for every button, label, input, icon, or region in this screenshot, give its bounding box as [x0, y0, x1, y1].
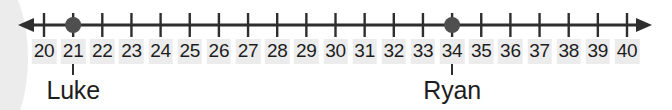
annotation-leader-line [72, 64, 74, 75]
annotation-label-ryan: Ryan [423, 77, 481, 104]
tick-label: 27 [236, 39, 261, 64]
tick-label: 25 [177, 39, 202, 64]
number-line-figure: 2021222324252627282930313233343536373839… [0, 0, 672, 110]
tick-label: 23 [119, 39, 144, 64]
tick-label: 40 [615, 39, 640, 64]
tick-label: 32 [382, 39, 407, 64]
tick-label: 21 [61, 39, 86, 64]
tick-label: 24 [148, 39, 173, 64]
right-arrowhead-icon [636, 18, 652, 32]
point-marker[interactable] [444, 17, 460, 33]
tick-label: 26 [207, 39, 232, 64]
tick-label: 33 [411, 39, 436, 64]
tick-label: 35 [469, 39, 494, 64]
tick-label: 30 [323, 39, 348, 64]
tick-label: 36 [498, 39, 523, 64]
annotation-label-luke: Luke [46, 77, 99, 104]
left-arrowhead-icon [18, 18, 34, 32]
tick-label: 38 [556, 39, 581, 64]
tick-label: 31 [352, 39, 377, 64]
tick-label: 28 [265, 39, 290, 64]
tick-label: 22 [90, 39, 115, 64]
tick-label: 34 [440, 39, 465, 64]
tick-marks [44, 13, 627, 37]
tick-label: 37 [527, 39, 552, 64]
tick-label: 29 [294, 39, 319, 64]
tick-label: 39 [586, 39, 611, 64]
tick-label: 20 [32, 39, 57, 64]
annotation-leader-line [451, 64, 453, 75]
point-marker[interactable] [65, 17, 81, 33]
